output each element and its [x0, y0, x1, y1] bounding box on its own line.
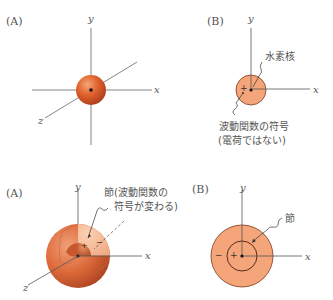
y-axis-label: y	[88, 14, 94, 24]
inner-sign: +	[81, 242, 88, 250]
orbital-diagram	[0, 0, 333, 300]
top-a-orbital	[32, 28, 152, 145]
x-axis-label: x	[305, 252, 311, 262]
bottom-b-cross-section	[211, 190, 302, 287]
y-axis-label: y	[75, 182, 81, 192]
x-axis-label: x	[145, 251, 151, 261]
panel-label-top-b: (B)	[207, 16, 224, 27]
inner-sign: +	[230, 251, 238, 260]
nucleus-dot	[249, 88, 252, 91]
nucleus-label: 水素核	[265, 50, 295, 63]
nucleus-dot	[240, 254, 243, 257]
node-label-line2: 符号が変わる)	[114, 200, 178, 213]
panel-label-bottom-b: (B)	[192, 184, 209, 195]
node-label-line1: 節(波動関数の	[104, 186, 168, 199]
sign-label-line1: 波動関数の符号	[219, 120, 289, 133]
x-axis-label: x	[154, 85, 160, 95]
y-axis-label: y	[248, 14, 254, 24]
z-axis-label: z	[38, 116, 43, 126]
top-b-cross-section	[233, 28, 310, 115]
node-label: 節	[285, 212, 295, 225]
panel-label-top-a: (A)	[6, 16, 23, 27]
nucleus-dot	[89, 88, 93, 92]
x-axis-label: x	[313, 85, 319, 95]
y-axis-label: y	[240, 183, 246, 193]
outer-sign: −	[96, 239, 103, 247]
outer-sign: −	[215, 251, 223, 260]
panel-label-bottom-a: (A)	[6, 188, 23, 199]
sign-plus: +	[240, 84, 248, 93]
sign-label-line2: (電荷ではない)	[218, 134, 286, 147]
z-axis-label: z	[23, 283, 28, 293]
